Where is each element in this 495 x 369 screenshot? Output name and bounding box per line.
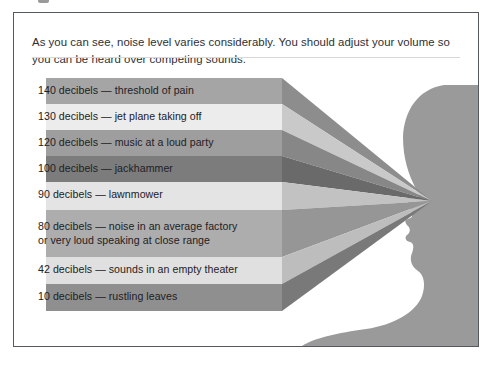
band-label-list: 140 decibels — threshold of pain130 deci… bbox=[14, 63, 478, 346]
band-label: 80 decibels — noise in an average factor… bbox=[38, 220, 237, 247]
band-label: 140 decibels — threshold of pain bbox=[38, 84, 194, 98]
band-label: 90 decibels — lawnmower bbox=[38, 188, 163, 202]
band-label: 10 decibels — rustling leaves bbox=[38, 290, 177, 304]
band-label: 100 decibels — jackhammer bbox=[38, 162, 173, 176]
band-label: 42 decibels — sounds in an empty theater bbox=[38, 263, 238, 277]
band-label: 120 decibels — music at a loud party bbox=[38, 136, 214, 150]
cropped-heading-fragment bbox=[38, 0, 49, 3]
decibel-diagram: 140 decibels — threshold of pain130 deci… bbox=[14, 63, 478, 346]
band-label: 130 decibels — jet plane taking off bbox=[38, 110, 202, 124]
content-card: As you can see, noise level varies consi… bbox=[13, 12, 479, 347]
horizontal-divider bbox=[32, 57, 460, 58]
